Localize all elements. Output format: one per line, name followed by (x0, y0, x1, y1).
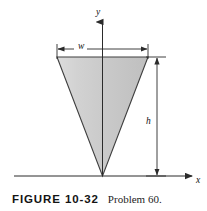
figure-diagram (0, 0, 207, 211)
y-axis-label: y (96, 8, 100, 18)
figure-container: y x w h FIGURE 10-32 Problem 60. (0, 0, 207, 211)
figure-number: FIGURE 10-32 (12, 193, 99, 205)
width-dimension-label: w (78, 42, 84, 52)
x-axis-label: x (196, 176, 200, 186)
height-dimension-label: h (146, 117, 151, 127)
figure-caption: FIGURE 10-32 Problem 60. (0, 186, 207, 211)
figure-caption-text: Problem 60. (108, 193, 162, 205)
